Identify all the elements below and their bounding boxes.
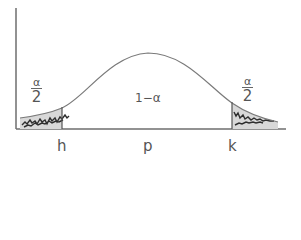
left-tail-denominator: 2	[32, 89, 42, 105]
right-tail-denominator: 2	[243, 88, 253, 104]
x-tick-k: k	[228, 137, 237, 155]
center-area-label: 1−α	[135, 91, 161, 105]
x-tick-h: h	[57, 137, 67, 155]
x-tick-p: p	[143, 137, 153, 155]
left-tail-label: α 2	[31, 77, 42, 105]
right-tail-label: α 2	[242, 76, 253, 104]
